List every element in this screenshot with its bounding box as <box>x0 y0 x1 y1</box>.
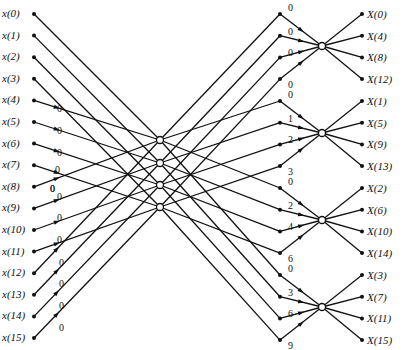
twiddle-label: 0 <box>288 3 293 13</box>
output-label: X(12) <box>367 73 392 85</box>
input-label: x(12) <box>2 266 25 278</box>
twiddle-label: 0 <box>57 148 62 158</box>
input-label: x(14) <box>2 309 25 321</box>
output-label: X(15) <box>367 334 392 346</box>
twiddle-label: 0 <box>288 27 293 37</box>
twiddle-label: 2 <box>288 201 293 211</box>
output-label: X(0) <box>367 8 387 20</box>
twiddle-label: 6 <box>288 309 293 319</box>
twiddle-label: 0 <box>57 213 62 223</box>
twiddle-label: 0 <box>57 104 62 114</box>
twiddle-label: 0 <box>288 264 293 274</box>
output-label: X(6) <box>367 204 387 216</box>
twiddle-label: 4 <box>288 222 293 232</box>
input-label: x(10) <box>2 223 25 235</box>
input-label: x(15) <box>2 331 25 343</box>
input-label: x(9) <box>2 201 20 213</box>
twiddle-label: 0 <box>55 165 60 175</box>
input-label: x(11) <box>2 245 24 257</box>
twiddle-label: 0 <box>288 48 293 58</box>
input-label: x(4) <box>2 93 20 105</box>
output-label: X(8) <box>367 51 387 63</box>
input-label: x(3) <box>2 72 20 84</box>
output-label: X(11) <box>367 312 391 324</box>
output-label: X(10) <box>367 225 392 237</box>
input-label: x(1) <box>2 29 20 41</box>
output-label: X(14) <box>367 247 392 259</box>
twiddle-label: 0 <box>59 323 64 333</box>
twiddle-label: 0 <box>57 126 62 136</box>
input-label: x(8) <box>2 180 20 192</box>
output-label: X(1) <box>367 95 387 107</box>
input-label: x(0) <box>2 7 20 19</box>
input-label: x(7) <box>2 158 20 170</box>
twiddle-label: 2 <box>288 135 293 145</box>
output-label: X(3) <box>367 269 387 281</box>
twiddle-label: 0 <box>59 279 64 289</box>
twiddle-label: 9 <box>288 341 293 350</box>
input-label: x(6) <box>2 137 20 149</box>
output-label: X(7) <box>367 291 387 303</box>
twiddle-label: 3 <box>288 288 293 298</box>
twiddle-label: 1 <box>288 114 293 124</box>
input-label: x(13) <box>2 288 25 300</box>
input-label: x(5) <box>2 115 20 127</box>
twiddle-label: 0 <box>288 177 293 187</box>
output-label: X(13) <box>367 160 392 172</box>
output-label: X(2) <box>367 182 387 194</box>
twiddle-label: 0 <box>57 235 62 245</box>
output-label: X(5) <box>367 117 387 129</box>
twiddle-label: 0 <box>59 258 64 268</box>
twiddle-label: 0 <box>288 90 293 100</box>
output-label: X(4) <box>367 30 387 42</box>
twiddle-label: 0 <box>57 192 62 202</box>
fft-flow-graph: x(0)x(1)x(2)x(3)x(4)x(5)x(6)x(7)x(8)x(9)… <box>0 0 404 350</box>
butterfly-lines <box>0 0 404 350</box>
twiddle-label: 0 <box>59 301 64 311</box>
twiddle-label: 0 <box>50 184 55 194</box>
input-label: x(2) <box>2 50 20 62</box>
output-label: X(9) <box>367 138 387 150</box>
